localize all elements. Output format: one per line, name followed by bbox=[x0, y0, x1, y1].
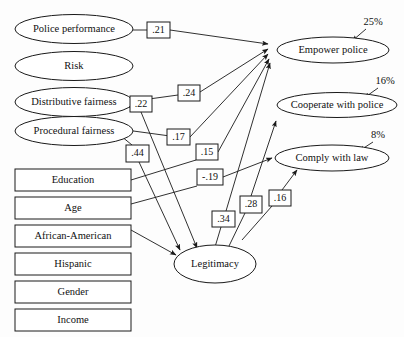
node-risk-label: Risk bbox=[64, 60, 84, 71]
coef-box-16-value: .16 bbox=[274, 192, 287, 203]
node-age-label: Age bbox=[64, 202, 82, 213]
variance-label-cooperate-with-police: 16% bbox=[375, 75, 395, 86]
coef-box-neg19-value: -.19 bbox=[202, 171, 218, 182]
coef-box-28[interactable]: .28 bbox=[240, 196, 262, 213]
coef-box-28-value: .28 bbox=[245, 198, 258, 209]
node-police-performance[interactable]: Police performance bbox=[15, 15, 133, 44]
edge-coef17-to-empower-police bbox=[190, 54, 268, 137]
edge-education-to-coef15 bbox=[131, 160, 196, 180]
coef-box-neg19[interactable]: -.19 bbox=[197, 169, 223, 185]
variance-label-empower-police: 25% bbox=[363, 16, 383, 27]
node-gender-label: Gender bbox=[58, 286, 89, 297]
edge-coef28-to-cooperate-with-police bbox=[251, 121, 276, 196]
node-legitimacy[interactable]: Legitimacy bbox=[174, 245, 256, 283]
node-income[interactable]: Income bbox=[15, 309, 131, 331]
edge-coef16-to-comply-with-law bbox=[282, 170, 297, 190]
node-education-label: Education bbox=[52, 174, 95, 185]
coef-box-24-value: .24 bbox=[183, 87, 196, 98]
coefficient-boxes: .21 .22 .24 .17 .15 .44 bbox=[126, 22, 291, 227]
coef-box-17[interactable]: .17 bbox=[167, 129, 190, 145]
node-procedural-fairness[interactable]: Procedural fairness bbox=[15, 117, 133, 146]
coef-box-15[interactable]: .15 bbox=[196, 144, 218, 160]
edge-african-american-to-legitimacy bbox=[131, 230, 176, 255]
edge-legitimacy-to-coef34 bbox=[215, 227, 221, 247]
coef-box-44-value: .44 bbox=[131, 147, 144, 158]
predictor-nodes: Police performance Risk Distributive fai… bbox=[15, 15, 133, 332]
node-legitimacy-label: Legitimacy bbox=[191, 258, 240, 269]
node-income-label: Income bbox=[57, 314, 89, 325]
path-diagram-container: Police performance Risk Distributive fai… bbox=[0, 0, 404, 337]
edge-coefneg19-to-comply-with-law bbox=[223, 158, 272, 177]
node-african-american-label: African-American bbox=[35, 230, 113, 241]
node-empower-police[interactable]: Empower police bbox=[277, 37, 389, 63]
node-risk[interactable]: Risk bbox=[15, 52, 133, 81]
edge-coef34-to-empower-police bbox=[226, 63, 270, 211]
node-education[interactable]: Education bbox=[15, 169, 131, 191]
edge-coef24-to-empower-police bbox=[200, 49, 268, 92]
coef-box-17-value: .17 bbox=[172, 131, 185, 142]
coef-box-21-value: .21 bbox=[152, 24, 165, 35]
coef-box-21[interactable]: .21 bbox=[147, 22, 170, 38]
edge-age-to-coefneg19 bbox=[131, 186, 197, 204]
edge-coef15-to-empower-police bbox=[218, 59, 269, 152]
coef-box-44[interactable]: .44 bbox=[126, 145, 149, 162]
node-comply-with-law[interactable]: Comply with law bbox=[275, 145, 389, 171]
variance-labels: 25% 16% 8% bbox=[363, 16, 395, 140]
coef-box-16[interactable]: .16 bbox=[269, 190, 291, 206]
node-cooperate-with-police-label: Cooperate with police bbox=[291, 99, 384, 110]
node-age[interactable]: Age bbox=[15, 197, 131, 219]
node-police-performance-label: Police performance bbox=[33, 23, 115, 34]
coef-box-24[interactable]: .24 bbox=[178, 85, 200, 101]
node-hispanic[interactable]: Hispanic bbox=[15, 253, 131, 275]
edge-layer bbox=[120, 30, 297, 255]
node-hispanic-label: Hispanic bbox=[54, 258, 92, 269]
outcome-nodes: Empower police Cooperate with police Com… bbox=[275, 37, 397, 171]
node-comply-with-law-label: Comply with law bbox=[296, 152, 369, 163]
path-diagram-canvas: Police performance Risk Distributive fai… bbox=[0, 0, 404, 337]
coef-box-34[interactable]: .34 bbox=[212, 211, 235, 227]
node-procedural-fairness-label: Procedural fairness bbox=[34, 125, 115, 136]
node-gender[interactable]: Gender bbox=[15, 281, 131, 303]
node-distributive-fairness[interactable]: Distributive fairness bbox=[15, 88, 133, 117]
coef-box-22[interactable]: .22 bbox=[130, 96, 152, 112]
variance-label-comply-with-law: 8% bbox=[371, 129, 385, 140]
coef-box-15-value: .15 bbox=[201, 146, 214, 157]
node-empower-police-label: Empower police bbox=[298, 44, 367, 55]
coef-box-22-value: .22 bbox=[135, 98, 148, 109]
node-african-american[interactable]: African-American bbox=[15, 225, 131, 247]
edge-coef21-to-empower-police bbox=[170, 30, 268, 44]
node-cooperate-with-police[interactable]: Cooperate with police bbox=[277, 93, 397, 118]
node-distributive-fairness-label: Distributive fairness bbox=[31, 96, 116, 107]
coef-box-34-value: .34 bbox=[217, 213, 230, 224]
